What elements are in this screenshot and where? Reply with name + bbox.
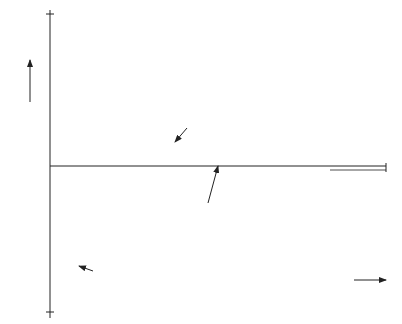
signal-label-arrow (208, 166, 218, 203)
decay-label-arrow (175, 128, 187, 142)
damped-sinusoid-diagram (0, 0, 402, 324)
envelope-label-arrow (79, 266, 93, 271)
